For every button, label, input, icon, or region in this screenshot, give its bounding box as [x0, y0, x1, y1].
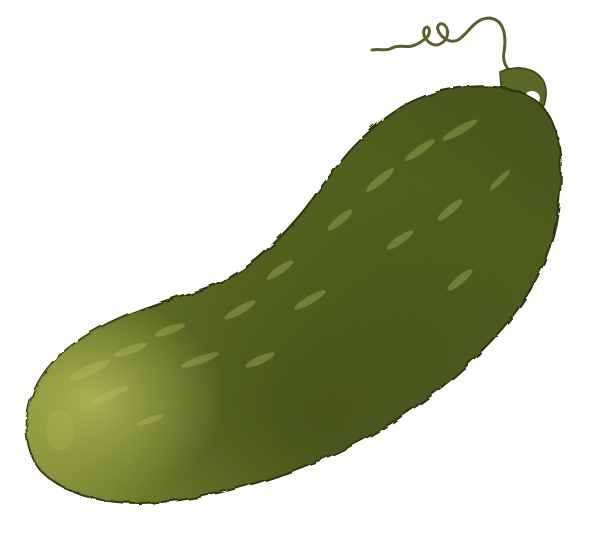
pickle-graphic: [0, 0, 605, 543]
pickle-illustration: [0, 0, 605, 543]
pickle-body: [27, 86, 561, 503]
stem-tendril: [372, 18, 512, 74]
